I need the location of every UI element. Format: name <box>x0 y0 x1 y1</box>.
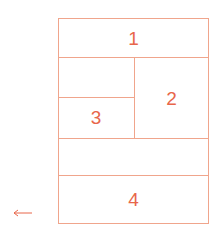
outer-border-top <box>58 18 209 19</box>
outer-border-bottom <box>58 223 209 224</box>
arrow-left-icon <box>12 206 34 220</box>
region-4-label: 4 <box>58 190 209 209</box>
divider-row-3 <box>58 175 209 176</box>
region-2-label: 2 <box>134 89 209 108</box>
region-1-label: 1 <box>58 29 209 48</box>
divider-region-3-top <box>58 97 134 98</box>
region-3-label: 3 <box>58 108 134 127</box>
